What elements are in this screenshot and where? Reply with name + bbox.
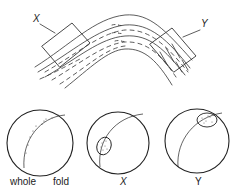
fold-drawing — [35, 15, 200, 88]
label-x: X — [120, 177, 127, 187]
box-label-x: X — [32, 13, 40, 24]
diagram-canvas: X Y — [0, 0, 236, 194]
label-fold: fold — [53, 177, 69, 187]
stereonet-y — [165, 109, 229, 173]
label-whole: whole — [10, 177, 36, 187]
fold-stereonet-diagram: X Y — [0, 0, 236, 194]
stereonet-whole-fold — [7, 110, 73, 176]
stereonet-x — [87, 112, 149, 174]
label-y: Y — [195, 177, 202, 187]
box-label-y: Y — [201, 18, 209, 29]
